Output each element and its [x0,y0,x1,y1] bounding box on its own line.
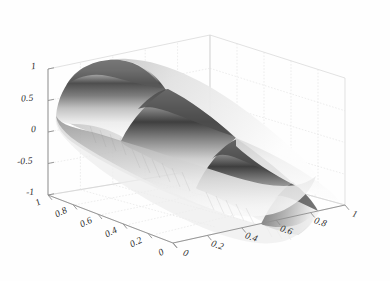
z-tick-label-1: 1 [31,62,37,72]
z-tick-label-0: 0 [31,125,37,135]
figure-canvas: 1 0.5 0 -0.5 -1 1 0.8 0.6 0.4 0.2 0 0 0.… [0,0,390,281]
surface-plot-svg [0,0,390,281]
z-tick-label-neg0.5: -0.5 [17,156,33,167]
z-tick-label-neg1: -1 [26,188,35,198]
z-tick-label-0.5: 0.5 [21,94,34,104]
